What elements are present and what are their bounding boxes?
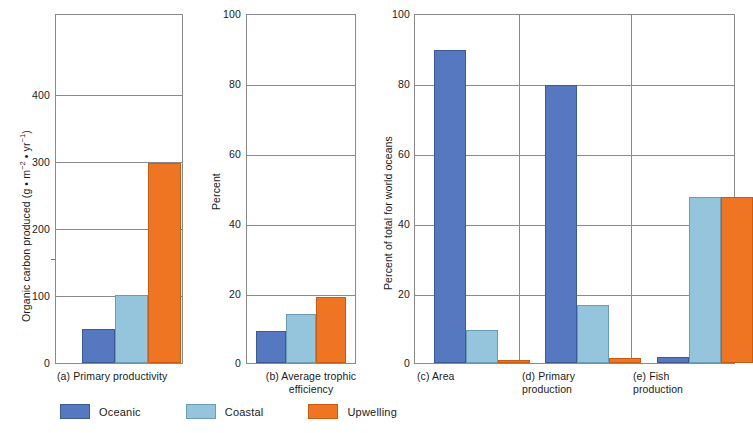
panel-a-ytick-300: 300 — [4, 156, 50, 168]
panel-cde: Percent of total for world oceans 100 80… — [370, 0, 744, 400]
legend-item-upwelling: Upwelling — [308, 404, 397, 419]
panel-b-plot-area — [246, 14, 356, 364]
bar-c-upwelling — [498, 360, 530, 363]
bar-e-coastal — [689, 197, 721, 363]
panel-a-ytick-400: 400 — [4, 89, 50, 101]
panel-a-caption: (a) Primary productivity — [57, 370, 197, 383]
bar-b-upwelling — [316, 297, 346, 363]
panel-b-ytick-40: 40 — [195, 218, 241, 230]
bar-c-coastal — [466, 330, 498, 363]
bar-c-oceanic — [434, 50, 466, 363]
panel-b-ytick-0: 0 — [195, 357, 241, 369]
panel-b-caption: (b) Average trophic efficiency — [251, 370, 371, 396]
panel-cde-plot-area — [414, 14, 735, 364]
panel-cde-group-divider-2 — [631, 15, 632, 363]
panel-b-ytick-100: 100 — [195, 8, 241, 20]
panel-cde-ytick-40: 40 — [370, 218, 410, 230]
bar-e-upwelling — [721, 197, 753, 363]
panel-c-caption: (c) Area — [417, 370, 517, 383]
panel-b-gridline-20 — [247, 295, 355, 296]
panel-e-caption: (e) Fish production — [633, 370, 733, 396]
bar-d-coastal — [577, 305, 609, 363]
bar-a-upwelling — [148, 163, 181, 363]
panel-a: Organic carbon produced (g • m−2 • yr−1)… — [0, 0, 195, 400]
panel-cde-ytick-80: 80 — [370, 78, 410, 90]
panel-b-y-axis-label: Percent — [210, 173, 222, 210]
panel-b-gridline-40 — [247, 225, 355, 226]
panel-cde-ytick-20: 20 — [370, 288, 410, 300]
panel-a-plot-area — [55, 14, 183, 364]
panel-a-ytick-200: 200 — [4, 223, 50, 235]
bar-d-oceanic — [545, 85, 577, 363]
panel-cde-ytick-100: 100 — [370, 8, 410, 20]
legend-item-coastal: Coastal — [186, 404, 264, 419]
bar-a-oceanic — [82, 329, 115, 363]
legend-swatch-oceanic-icon — [60, 404, 90, 419]
panel-cde-group-divider-1 — [519, 15, 520, 363]
panel-b-gridline-80 — [247, 85, 355, 86]
bar-a-coastal — [115, 295, 148, 363]
panel-b: Percent 100 80 60 40 20 0 (b) Average tr… — [195, 0, 370, 400]
legend-label-coastal: Coastal — [225, 406, 264, 418]
panel-b-gridline-60 — [247, 155, 355, 156]
panel-cde-ytick-0: 0 — [370, 357, 410, 369]
bar-d-upwelling — [609, 358, 641, 363]
panel-a-ytick-0: 0 — [4, 357, 50, 369]
panel-d-caption: (d) Primary production — [522, 370, 622, 396]
bar-b-coastal — [286, 314, 316, 363]
legend: Oceanic Coastal Upwelling — [60, 404, 397, 419]
panel-a-gridline-400 — [56, 95, 182, 96]
legend-swatch-coastal-icon — [186, 404, 216, 419]
legend-item-oceanic: Oceanic — [60, 404, 141, 419]
panel-cde-ytick-60: 60 — [370, 148, 410, 160]
bar-e-oceanic — [657, 357, 689, 363]
legend-label-oceanic: Oceanic — [99, 406, 141, 418]
panel-a-ytick-100: 100 — [4, 290, 50, 302]
legend-label-upwelling: Upwelling — [347, 406, 397, 418]
panel-b-ytick-80: 80 — [195, 78, 241, 90]
legend-swatch-upwelling-icon — [308, 404, 338, 419]
panel-b-ytick-20: 20 — [195, 288, 241, 300]
bar-b-oceanic — [256, 331, 286, 363]
panel-b-ytick-60: 60 — [195, 148, 241, 160]
